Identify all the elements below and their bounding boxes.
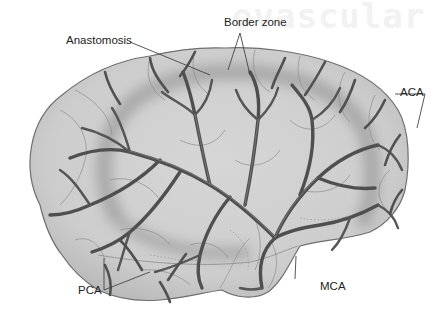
cerebral-hemisphere [30,48,408,301]
label-aca: ACA [400,86,424,98]
brain-illustration [0,0,437,325]
label-anastomosis: Anastomosis [66,34,132,46]
brain-diagram: ovascular disease [0,0,437,325]
label-pca: PCA [78,284,102,296]
label-border-zone: Border zone [224,16,287,28]
label-mca: MCA [320,280,346,292]
